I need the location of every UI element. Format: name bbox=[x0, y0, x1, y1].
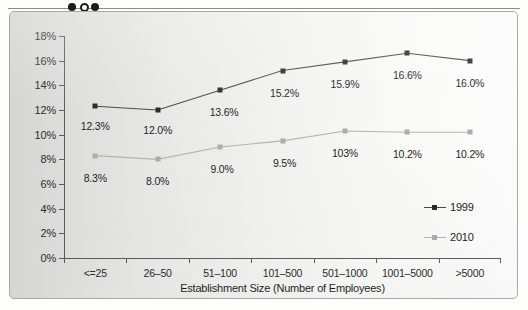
x-axis-tick bbox=[500, 258, 501, 263]
data-point-marker[interactable] bbox=[467, 130, 472, 135]
y-axis-tick-label: 18% bbox=[35, 30, 56, 42]
data-point-value-label: 10.2% bbox=[393, 148, 422, 160]
y-axis-tick-label: 16% bbox=[35, 55, 56, 67]
y-axis-tick-label: 14% bbox=[35, 79, 56, 91]
data-point-marker[interactable] bbox=[280, 68, 285, 73]
legend-marker-2010-icon bbox=[424, 233, 446, 242]
data-point-value-label: 16.0% bbox=[455, 77, 484, 89]
data-point-marker[interactable] bbox=[93, 153, 98, 158]
data-point-value-label: 103% bbox=[332, 147, 358, 159]
data-point-value-label: 12.3% bbox=[81, 120, 110, 132]
data-point-marker[interactable] bbox=[218, 145, 223, 150]
y-axis-tick-label: 12% bbox=[35, 104, 56, 116]
x-axis-tick bbox=[251, 258, 252, 263]
x-axis-tick bbox=[189, 258, 190, 263]
data-point-value-label: 8.3% bbox=[84, 172, 107, 184]
x-axis-category-label: 51–100 bbox=[203, 267, 237, 279]
y-axis-tick-label: 4% bbox=[41, 203, 57, 215]
legend-label-2010: 2010 bbox=[450, 231, 474, 243]
data-point-marker[interactable] bbox=[342, 59, 347, 64]
data-point-value-label: 10.2% bbox=[455, 148, 484, 160]
x-axis-category-label: <=25 bbox=[84, 267, 107, 279]
x-axis-title: Establishment Size (Number of Employees) bbox=[64, 282, 501, 294]
x-axis-category-label: 1001–5000 bbox=[382, 267, 433, 279]
x-axis-category-label: 26–50 bbox=[144, 267, 172, 279]
data-point-marker[interactable] bbox=[93, 104, 98, 109]
y-axis-tick-label: 6% bbox=[41, 178, 57, 190]
scanned-page: 0%2%4%6%8%10%12%14%16%18% <=2526–5051–10… bbox=[0, 0, 528, 310]
data-point-marker[interactable] bbox=[155, 108, 160, 113]
y-axis-tick-label: 10% bbox=[35, 129, 56, 141]
data-point-marker[interactable] bbox=[405, 130, 410, 135]
x-axis-category-label: 501–1000 bbox=[322, 267, 367, 279]
data-point-marker[interactable] bbox=[280, 138, 285, 143]
y-axis-tick-label: 2% bbox=[41, 227, 57, 239]
data-point-value-label: 9.0% bbox=[210, 163, 233, 175]
fold-mark-dot-1 bbox=[68, 3, 76, 11]
data-point-value-label: 15.9% bbox=[331, 78, 360, 90]
chart-container: 0%2%4%6%8%10%12%14%16%18% <=2526–5051–10… bbox=[9, 11, 518, 299]
data-point-marker[interactable] bbox=[467, 58, 472, 63]
x-axis-tick bbox=[126, 258, 127, 263]
y-axis-tick-label: 0% bbox=[41, 252, 57, 264]
data-point-value-label: 13.6% bbox=[210, 106, 239, 118]
data-point-value-label: 12.0% bbox=[143, 124, 172, 136]
legend-marker-1999-icon bbox=[424, 203, 446, 212]
data-point-value-label: 16.6% bbox=[393, 69, 422, 81]
y-axis-tick-label: 8% bbox=[41, 153, 57, 165]
legend-label-1999: 1999 bbox=[450, 201, 474, 213]
x-axis-line bbox=[64, 258, 501, 259]
x-axis-tick bbox=[376, 258, 377, 263]
x-axis-tick bbox=[314, 258, 315, 263]
data-point-value-label: 8.0% bbox=[146, 175, 169, 187]
fold-mark-dot-3 bbox=[91, 3, 99, 11]
chart-legend: 1999 2010 bbox=[424, 198, 474, 258]
data-point-marker[interactable] bbox=[342, 128, 347, 133]
series-line-1999 bbox=[95, 53, 470, 110]
legend-item-1999[interactable]: 1999 bbox=[424, 198, 474, 216]
x-axis-category-label: 101–500 bbox=[263, 267, 302, 279]
data-point-marker[interactable] bbox=[218, 88, 223, 93]
data-point-marker[interactable] bbox=[155, 157, 160, 162]
x-axis-tick bbox=[64, 258, 65, 263]
legend-item-2010[interactable]: 2010 bbox=[424, 228, 474, 246]
data-point-value-label: 9.5% bbox=[273, 157, 296, 169]
data-point-value-label: 15.2% bbox=[270, 87, 299, 99]
x-axis-tick bbox=[439, 258, 440, 263]
data-point-marker[interactable] bbox=[405, 51, 410, 56]
x-axis-category-label: >5000 bbox=[456, 267, 485, 279]
